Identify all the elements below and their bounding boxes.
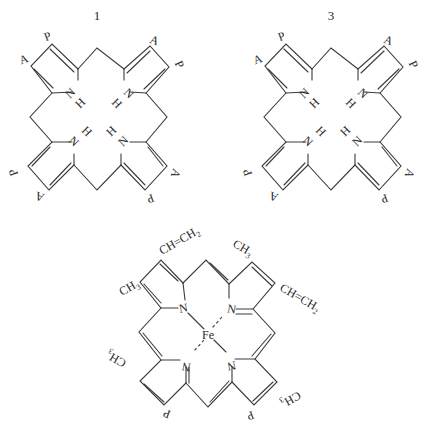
n-atom: N: [180, 359, 191, 374]
substituent-a: A: [382, 32, 395, 48]
structure-isomer-1: 1 N H N H N H N H A P A P A P A P: [5, 8, 187, 207]
substituent-p: P: [406, 58, 422, 70]
substituent-a: A: [33, 189, 46, 205]
svg-text:CH3: CH3: [104, 346, 130, 370]
porphyrin-skeleton: [28, 44, 169, 190]
substituent-p: P: [145, 191, 156, 207]
svg-text:CH3: CH3: [230, 236, 256, 260]
structure-isomer-3: 3 N H N H N H N H A P A P A P P A: [239, 8, 421, 207]
structure-heme: Fe N N N N CH=CH2 CH3 CH3 CH=CH2 CH3 CH3…: [104, 223, 323, 423]
n-atom: N: [178, 300, 189, 315]
substituent-methyl-bottom-left: CH3: [104, 346, 130, 370]
porphyrin-skeleton: [262, 44, 403, 190]
porphyrin-figure: 1 N H N H N H N H A P A P A P A P 3 N H …: [0, 0, 430, 431]
substituent-vinyl-top-right: CH=CH2: [277, 280, 323, 316]
substituent-vinyl-top-left: CH=CH2: [157, 223, 203, 259]
substituent-methyl-top-right: CH3: [230, 236, 256, 260]
svg-text:CH3: CH3: [278, 387, 304, 411]
n-atom: N: [349, 133, 365, 149]
substituent-a: A: [251, 51, 264, 67]
substituent-methyl-bottom-right: CH3: [278, 387, 304, 411]
h-atom: H: [79, 123, 95, 139]
substituent-methyl-top-left: CH3: [117, 276, 143, 300]
structure-number-3: 3: [328, 8, 335, 23]
n-atom: N: [66, 133, 82, 149]
n-atom: N: [226, 358, 237, 373]
substituent-p: P: [245, 408, 256, 424]
h-atom: H: [109, 95, 125, 111]
substituent-a: A: [402, 167, 418, 180]
substituent-a: A: [17, 51, 30, 67]
substituent-p: P: [379, 191, 390, 207]
substituent-a: A: [267, 189, 280, 205]
svg-text:CH=CH2: CH=CH2: [277, 280, 323, 316]
n-atom: N: [300, 133, 316, 149]
n-atom: N: [115, 133, 131, 149]
substituent-p: P: [5, 167, 21, 178]
svg-text:CH3: CH3: [117, 276, 143, 300]
fe-atom: Fe: [202, 328, 214, 342]
substituent-p: P: [42, 28, 53, 44]
h-atom: H: [343, 95, 359, 111]
substituent-p: P: [239, 167, 255, 178]
substituent-a: A: [148, 32, 161, 48]
svg-text:CH=CH2: CH=CH2: [157, 223, 203, 259]
substituent-p: P: [161, 406, 172, 422]
substituent-a: A: [168, 167, 184, 180]
substituent-p: P: [276, 28, 287, 44]
structure-number-1: 1: [94, 8, 101, 23]
substituent-p: P: [172, 58, 188, 70]
h-atom: H: [313, 123, 329, 139]
